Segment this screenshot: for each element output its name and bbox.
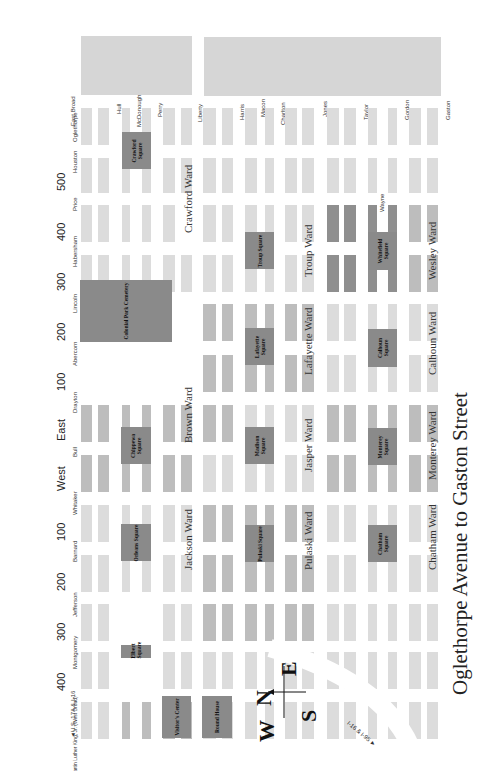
- compass-w: W: [254, 720, 280, 742]
- compass-e: E: [276, 661, 302, 676]
- map-title: Oglethorpe Avenue to Gaston Street: [448, 392, 473, 695]
- us17a-label: ◄U.S. 17A & I-16: [70, 691, 76, 738]
- compass-s: S: [296, 710, 322, 722]
- compass-rose: N E S W: [248, 654, 318, 724]
- street-label-wayne: Wayne: [379, 194, 385, 212]
- highway-curve: [0, 0, 482, 771]
- compass-n: N: [251, 690, 277, 706]
